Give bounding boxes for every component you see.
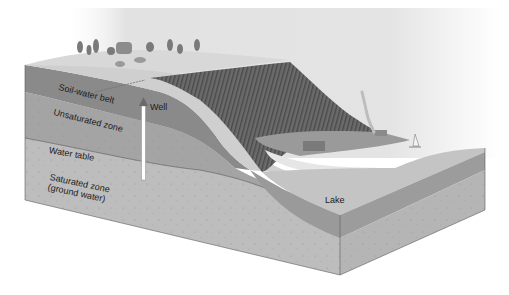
well-label: Well [150, 102, 167, 112]
groundwater-block-diagram [0, 0, 509, 295]
lake-label: Lake [325, 195, 345, 205]
